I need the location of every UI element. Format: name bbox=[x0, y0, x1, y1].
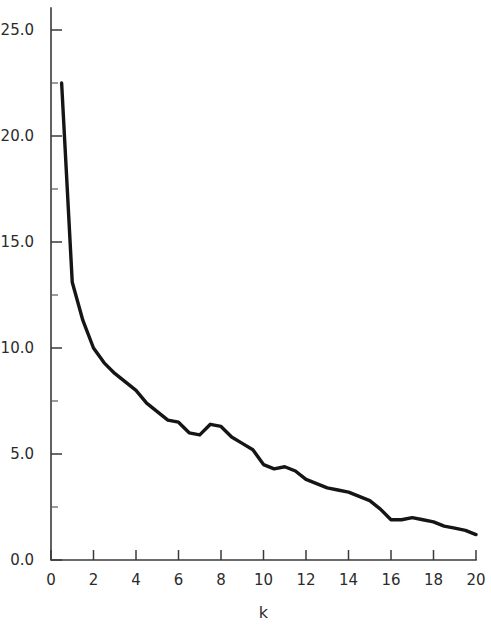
y-tick-label: 10.0 bbox=[1, 339, 34, 357]
x-axis-title: k bbox=[259, 603, 269, 622]
y-tick-label: 0.0 bbox=[10, 551, 34, 569]
y-tick-label: 20.0 bbox=[1, 127, 34, 145]
y-tick-label: 5.0 bbox=[10, 445, 34, 463]
plot-background bbox=[0, 0, 491, 638]
chart-figure: 0.05.010.015.020.025.0 02468101214161820… bbox=[0, 0, 491, 638]
x-tick-label: 20 bbox=[466, 571, 485, 589]
x-tick-label: 2 bbox=[89, 571, 99, 589]
x-tick-label: 12 bbox=[296, 571, 315, 589]
y-tick-label: 25.0 bbox=[1, 21, 34, 39]
x-tick-label: 16 bbox=[381, 571, 400, 589]
scree-plot-svg: 0.05.010.015.020.025.0 02468101214161820… bbox=[0, 0, 491, 638]
x-tick-label: 6 bbox=[174, 571, 184, 589]
x-tick-label: 0 bbox=[46, 571, 56, 589]
y-tick-label: 15.0 bbox=[1, 233, 34, 251]
x-tick-label: 10 bbox=[254, 571, 273, 589]
x-axis-title-group: k bbox=[259, 603, 269, 622]
x-tick-label: 14 bbox=[339, 571, 358, 589]
x-tick-label: 8 bbox=[216, 571, 226, 589]
x-tick-label: 4 bbox=[131, 571, 141, 589]
x-tick-label: 18 bbox=[424, 571, 443, 589]
